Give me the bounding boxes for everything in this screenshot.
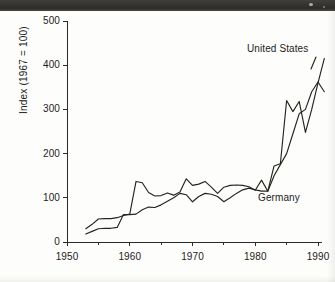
figure-container: 0 100 200 300 400 500 1950 1960 1970 198…: [0, 0, 335, 282]
united-states-leader-line: [311, 57, 316, 69]
x-tick-label-1990: 1990: [304, 251, 332, 262]
x-tick-label-1980: 1980: [241, 251, 269, 262]
x-tick-label-1960: 1960: [116, 251, 144, 262]
series-label-united-states: United States: [247, 43, 308, 54]
y-tick-label-100: 100: [30, 192, 60, 203]
x-tick-label-1970: 1970: [179, 251, 207, 262]
x-tick-label-1950: 1950: [53, 251, 81, 262]
y-tick-label-0: 0: [30, 236, 60, 247]
y-tick-label-400: 400: [30, 59, 60, 70]
y-tick-label-500: 500: [30, 15, 60, 26]
series-label-germany: Germany: [258, 192, 300, 203]
x-axis-ticks: [67, 242, 318, 246]
y-axis-title: Index (1967 = 100): [18, 26, 29, 114]
y-tick-label-200: 200: [30, 148, 60, 159]
y-tick-label-300: 300: [30, 103, 60, 114]
series-line-united-states: [86, 59, 324, 229]
y-axis-ticks: [63, 21, 67, 242]
